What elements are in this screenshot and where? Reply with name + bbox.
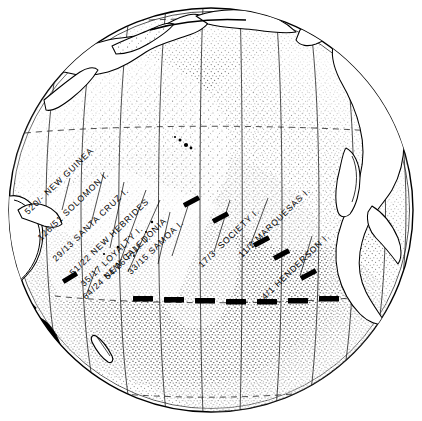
globe-figure: 520/- NEW GUINEA 126/51 SOLOMON I. 29/13… xyxy=(0,0,422,421)
boundary-dash xyxy=(164,297,184,302)
boundary-dash xyxy=(133,296,153,301)
boundary-dash xyxy=(226,299,246,304)
land-nw-canada xyxy=(296,17,352,46)
globe-svg: 520/- NEW GUINEA 126/51 SOLOMON I. 29/13… xyxy=(0,0,422,421)
boundary-dash xyxy=(288,298,308,303)
boundary-dash xyxy=(195,298,215,303)
boundary-dash xyxy=(319,296,339,301)
